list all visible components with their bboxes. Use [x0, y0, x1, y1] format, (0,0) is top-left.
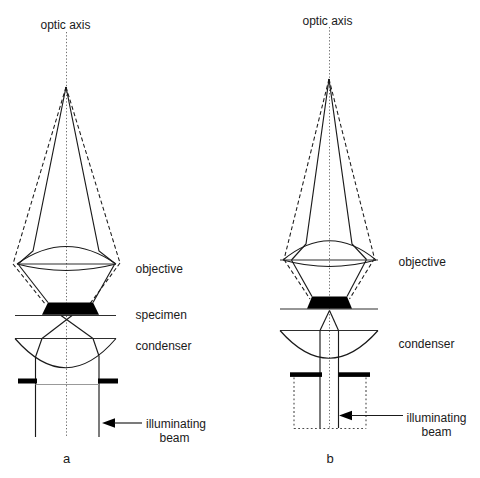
- ray-dashed-left-upper: [284, 79, 329, 260]
- ray-dashed-left-lower: [13, 264, 46, 305]
- objective-lens-top-arc: [17, 247, 116, 265]
- ray-dashed-right-upper: [66, 87, 120, 263]
- beam-label-line1: illuminating: [146, 417, 206, 431]
- ray-solid-left-upper: [18, 87, 66, 264]
- ray-under-specimen-right: [61, 316, 93, 339]
- condenser-label: condenser: [136, 339, 192, 353]
- condenser-bottom-arc: [15, 339, 116, 368]
- ray-solid-left-upper: [292, 79, 330, 260]
- figure-canvas: optic axis: [0, 0, 480, 478]
- diaphragm-blade-left: [18, 379, 37, 384]
- ray-under-specimen-left: [320, 311, 330, 331]
- objective-label: objective: [399, 255, 447, 269]
- condenser-label: condenser: [399, 337, 455, 351]
- beam-label-line1: illuminating: [406, 411, 466, 425]
- ray-under-specimen-right: [330, 311, 339, 331]
- optic-axis-label: optic axis: [302, 14, 352, 28]
- beam-arrowhead-icon: [339, 411, 352, 420]
- ray-solid-right-lower: [93, 264, 115, 303]
- optic-axis-label: optic axis: [40, 18, 90, 32]
- ray-dashed-right-lower: [89, 263, 120, 305]
- ray-dashed-left-upper: [13, 87, 66, 264]
- diaphragm-blade-right: [339, 372, 371, 377]
- ray-under-specimen-left: [42, 316, 72, 339]
- diaphragm-blade-right: [98, 379, 118, 384]
- ray-solid-left-lower: [18, 264, 48, 303]
- microscope-illumination-figure: optic axis: [0, 0, 480, 478]
- diagram-b: optic axis: [280, 14, 467, 466]
- ray-dashed-right-upper: [329, 79, 375, 259]
- beam-arrowhead-icon: [102, 418, 115, 427]
- objective-lens-top-arc: [283, 241, 376, 260]
- specimen-label: specimen: [136, 308, 187, 322]
- specimen-shape: [307, 297, 352, 309]
- specimen-shape: [42, 303, 99, 315]
- diagram-a: optic axis: [13, 18, 206, 466]
- ray-solid-right-upper: [66, 87, 115, 264]
- caption-b: b: [326, 451, 333, 466]
- caption-a: a: [63, 451, 71, 466]
- diaphragm-blade-left: [290, 372, 322, 377]
- ray-in-condenser-right: [93, 339, 99, 357]
- objective-label: objective: [136, 262, 184, 276]
- beam-label-line2: beam: [421, 425, 451, 439]
- ray-in-condenser-left: [36, 339, 43, 358]
- ray-solid-right-upper: [329, 79, 367, 260]
- beam-label-line2: beam: [159, 431, 189, 445]
